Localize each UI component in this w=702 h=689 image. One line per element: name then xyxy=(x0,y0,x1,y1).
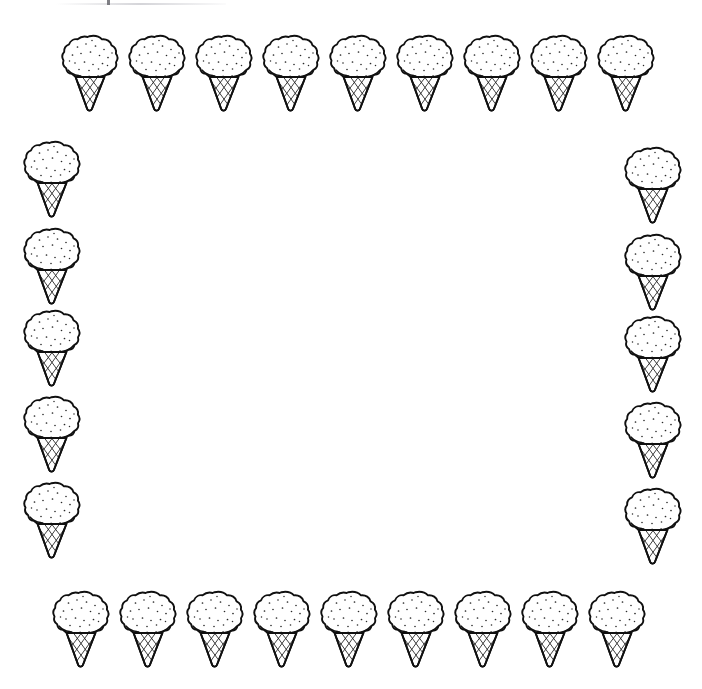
scan-edge-speck-icon xyxy=(107,0,110,5)
ice-cream-cone-icon xyxy=(53,589,109,671)
ice-cream-cone-icon xyxy=(522,589,578,671)
ice-cream-cone-icon xyxy=(263,33,319,115)
ice-cream-cone-icon xyxy=(24,139,80,221)
ice-cream-cone-icon xyxy=(531,33,587,115)
ice-cream-cone-icon xyxy=(24,308,80,390)
ice-cream-cone-icon xyxy=(196,33,252,115)
ice-cream-cone-icon xyxy=(598,33,654,115)
ice-cream-cone-icon xyxy=(464,33,520,115)
ice-cream-cone-icon xyxy=(330,33,386,115)
ice-cream-cone-icon xyxy=(625,400,681,482)
ice-cream-cone-icon xyxy=(24,480,80,562)
scan-edge-smudge-icon xyxy=(56,3,226,5)
ice-cream-cone-icon xyxy=(388,589,444,671)
blank-writing-area xyxy=(110,130,592,560)
worksheet-page xyxy=(0,0,702,689)
ice-cream-cone-icon xyxy=(625,232,681,314)
ice-cream-cone-icon xyxy=(254,589,310,671)
ice-cream-cone-icon xyxy=(625,145,681,227)
ice-cream-cone-icon xyxy=(62,33,118,115)
ice-cream-cone-icon xyxy=(24,394,80,476)
ice-cream-cone-icon xyxy=(129,33,185,115)
ice-cream-cone-icon xyxy=(625,486,681,568)
ice-cream-cone-icon xyxy=(120,589,176,671)
ice-cream-cone-icon xyxy=(397,33,453,115)
ice-cream-cone-icon xyxy=(625,314,681,396)
ice-cream-cone-icon xyxy=(187,589,243,671)
ice-cream-cone-icon xyxy=(589,589,645,671)
ice-cream-cone-icon xyxy=(455,589,511,671)
ice-cream-cone-icon xyxy=(24,226,80,308)
ice-cream-cone-icon xyxy=(321,589,377,671)
